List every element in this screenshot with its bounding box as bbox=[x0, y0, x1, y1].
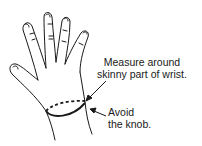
avoid-arrow bbox=[94, 111, 106, 116]
middle-finger bbox=[44, 13, 56, 69]
avoid-instruction: Avoid the knob. bbox=[108, 106, 151, 130]
thumb bbox=[10, 64, 46, 111]
measure-line-2: skinny part of wrist. bbox=[97, 68, 187, 80]
forearm-right bbox=[85, 102, 92, 134]
avoid-line-2: the knob. bbox=[108, 118, 151, 130]
measure-instruction: Measure around skinny part of wrist. bbox=[97, 56, 187, 80]
avoid-line-1: Avoid bbox=[108, 106, 151, 118]
index-finger bbox=[23, 23, 46, 80]
measure-line-1: Measure around bbox=[97, 56, 187, 68]
measure-arrow bbox=[89, 81, 106, 98]
measure-band-front bbox=[46, 103, 85, 116]
